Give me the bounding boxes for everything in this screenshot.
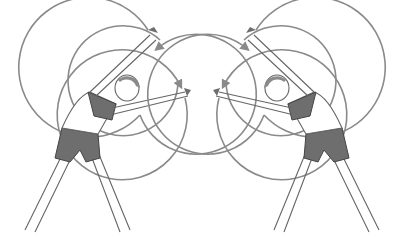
stretching-figures-illustration bbox=[0, 0, 404, 252]
illustration bbox=[0, 0, 404, 252]
